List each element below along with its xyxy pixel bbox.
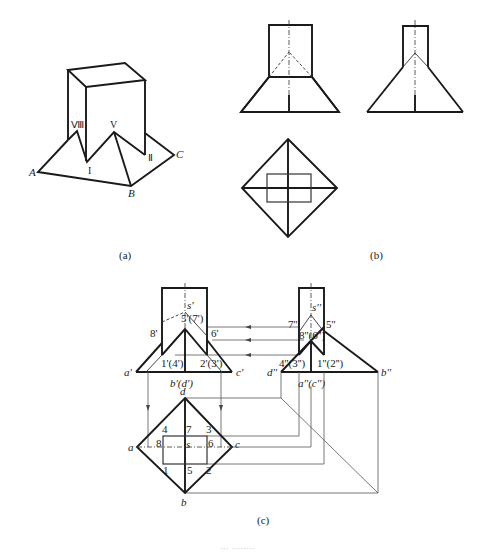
label-3: 3 (206, 423, 212, 435)
panel-a-isometric: Ⅷ V I Ⅱ A B C (a) (28, 63, 184, 262)
label-8-6-double-prime: 8''(6'') (299, 329, 326, 342)
label-7-double-prime: 7'' (288, 318, 297, 330)
label-c-prime: c' (236, 366, 244, 378)
label-s-double-prime: s'' (312, 301, 322, 313)
label-a-prime: a' (124, 366, 133, 378)
label-7: 7 (186, 423, 192, 435)
figure-caption-faint: ··· ········ (220, 544, 254, 554)
label-c: c (235, 438, 240, 450)
label-8-prime: 8' (150, 327, 158, 339)
label-4: 4 (162, 423, 168, 435)
label-2: 2 (206, 464, 212, 476)
label-1-2-double-prime: 1''(2'') (317, 357, 344, 370)
label-2-3-prime: 2'(3') (200, 357, 223, 370)
label-d: d (180, 385, 186, 397)
panel-c-solution: s' 5'(7') 8' 6' 1'(4') 2'(3') a' c' b'(d… (124, 283, 392, 527)
label-5: 5 (187, 464, 193, 476)
caption-a: (a) (119, 249, 132, 262)
point-VIII-label: Ⅷ (71, 119, 84, 130)
label-d-double-prime: d'' (267, 366, 278, 378)
caption-c: (c) (257, 514, 270, 527)
label-6-prime: 6' (211, 327, 219, 339)
panel-b-views: (b) (241, 20, 463, 262)
label-s: s (186, 438, 190, 450)
point-A-label: A (28, 166, 36, 178)
label-4-3-double-prime: 4''(3'') (279, 357, 306, 370)
label-a: a (128, 441, 134, 453)
label-1: 1 (163, 464, 169, 476)
label-8: 8 (156, 437, 162, 449)
point-B-label: B (128, 187, 135, 199)
caption-b: (b) (370, 249, 383, 262)
point-V-label: V (110, 119, 118, 130)
label-6: 6 (208, 437, 214, 449)
descriptive-geometry-figure: Ⅷ V I Ⅱ A B C (a) (b) (0, 0, 492, 556)
label-s-prime: s' (187, 299, 194, 311)
point-C-label: C (176, 148, 184, 160)
point-I-label: I (88, 165, 91, 176)
label-a-c-double-prime: a''(c'') (298, 377, 325, 390)
label-1-4-prime: 1'(4') (161, 357, 184, 370)
label-5-7-prime: 5'(7') (181, 312, 204, 325)
point-II-label: Ⅱ (148, 152, 153, 163)
label-5-double-prime: 5'' (326, 318, 335, 330)
label-b-double-prime: b'' (381, 366, 392, 378)
label-b: b (181, 496, 187, 508)
